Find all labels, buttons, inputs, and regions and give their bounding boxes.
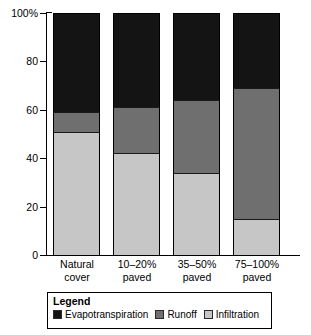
segment-evapotranspiration — [174, 13, 219, 100]
segment-infiltration — [234, 219, 279, 255]
x-label-line1: 10–20% — [118, 258, 157, 270]
segment-runoff — [54, 112, 99, 131]
segment-runoff — [114, 107, 159, 153]
legend-swatch-runoff-icon — [155, 310, 164, 319]
segment-runoff — [174, 100, 219, 173]
segment-infiltration — [174, 173, 219, 255]
legend-item-infiltration[interactable]: Infiltration — [204, 309, 259, 320]
x-label-line1: Natural — [60, 258, 94, 270]
y-tick-label-60: 60 — [26, 105, 38, 116]
x-axis-line — [46, 255, 300, 256]
x-label-line1: 35–50% — [178, 258, 217, 270]
segment-infiltration — [114, 153, 159, 255]
legend-items: Evapotranspiration Runoff Infiltration — [53, 309, 271, 320]
legend-title: Legend — [53, 296, 271, 307]
legend-swatch-evapotranspiration-icon — [53, 310, 62, 319]
y-axis-labels: 100% 80 60 40 20 0 — [0, 0, 38, 335]
stacked-bar-chart-figure: 100% 80 60 40 20 0 — [0, 0, 311, 335]
segment-evapotranspiration — [54, 13, 99, 112]
plot-area — [47, 13, 300, 255]
y-axis-tick-100 — [40, 13, 46, 14]
legend-item-runoff[interactable]: Runoff — [155, 309, 196, 320]
chart-legend: Legend Evapotranspiration Runoff Infiltr… — [47, 292, 272, 329]
y-tick-label-100: 100% — [11, 8, 38, 19]
y-tick-label-80: 80 — [26, 56, 38, 67]
bar-natural-cover[interactable] — [53, 13, 100, 255]
legend-swatch-infiltration-icon — [204, 310, 213, 319]
y-axis-tick-80 — [40, 61, 46, 62]
x-axis-end-cap — [294, 255, 300, 256]
bar-35-50-paved[interactable] — [173, 13, 220, 255]
legend-label-infiltration: Infiltration — [216, 309, 259, 320]
bar-10-20-paved[interactable] — [113, 13, 160, 255]
legend-label-runoff: Runoff — [167, 309, 196, 320]
y-axis-tick-60 — [40, 110, 46, 111]
segment-evapotranspiration — [234, 13, 279, 88]
y-axis-tick-20 — [40, 207, 46, 208]
y-axis-tick-0 — [40, 255, 46, 256]
bar-75-100-paved[interactable] — [233, 13, 280, 255]
legend-label-evapotranspiration: Evapotranspiration — [65, 309, 148, 320]
legend-item-evapotranspiration[interactable]: Evapotranspiration — [53, 309, 148, 320]
x-label-line1: 75–100% — [235, 258, 279, 270]
y-axis-tick-40 — [40, 158, 46, 159]
y-tick-label-0: 0 — [32, 250, 38, 261]
segment-runoff — [234, 88, 279, 219]
segment-evapotranspiration — [114, 13, 159, 107]
segment-infiltration — [54, 132, 99, 255]
y-tick-label-20: 20 — [26, 202, 38, 213]
x-label-line2: paved — [221, 271, 293, 284]
y-tick-label-40: 40 — [26, 153, 38, 164]
x-axis-labels: Natural cover 10–20% paved 35–50% paved … — [47, 258, 300, 290]
x-label-75-100-paved: 75–100% paved — [221, 258, 293, 283]
